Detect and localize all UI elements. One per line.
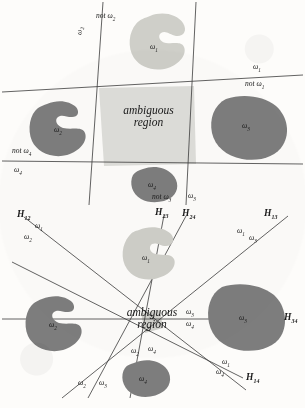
top-label-not-omega-3: not ω3 xyxy=(152,193,171,203)
top-label-omega-4: ω4 xyxy=(14,166,22,176)
bottom-hyperplane-label-H24: H24 xyxy=(182,209,195,220)
top-label-omega-1: ω1 xyxy=(253,63,261,73)
bottom-label-H24-omega-4: ω4 xyxy=(148,345,156,355)
top-blob-label-omega-4: ω4 xyxy=(148,181,156,191)
top-blob-label-omega-2: ω2 xyxy=(54,126,62,136)
bottom-label-H23-omega-3: ω3 xyxy=(99,379,107,389)
top-label-omega-3: ω3 xyxy=(188,192,196,202)
top-blob-omega1 xyxy=(130,14,185,70)
bottom-hyperplane-label-H23: H23 xyxy=(155,208,168,219)
bottom-ambiguous-line-1: ambiguous xyxy=(104,306,200,318)
bottom-label-H12-omega-1: ω1 xyxy=(35,222,43,232)
bottom-label-H14-omega-1: ω1 xyxy=(222,358,230,368)
top-blob-label-omega-1: ω1 xyxy=(150,43,158,53)
bottom-label-H14-omega-4: ω4 xyxy=(216,368,224,378)
figure-canvas: ω2 not ω2 ω1 not ω1 not ω4 ω4 not ω3 ω3 … xyxy=(0,0,305,408)
top-label-not-omega-1: not ω1 xyxy=(245,80,264,90)
bottom-hyperplane-label-H34: H34 xyxy=(284,313,297,324)
top-ambiguous-region-label: ambiguous region xyxy=(106,104,191,129)
top-ambiguous-line-2: region xyxy=(106,116,191,128)
bottom-blob-label-omega-1: ω1 xyxy=(142,254,150,264)
bottom-ambiguous-region-label: ambiguous region xyxy=(104,306,200,331)
top-label-not-omega-2: not ω2 xyxy=(96,12,115,22)
top-label-not-omega-4: not ω4 xyxy=(12,147,31,157)
bottom-label-H12-omega-2: ω2 xyxy=(24,233,32,243)
bottom-blob-label-omega-4: ω4 xyxy=(139,375,147,385)
bottom-label-H13-omega-3: ω3 xyxy=(249,234,257,244)
top-blob-label-omega-3: ω3 xyxy=(242,122,250,132)
bottom-blob-label-omega-2: ω2 xyxy=(49,321,57,331)
bottom-blob-label-omega-3: ω3 xyxy=(239,314,247,324)
bottom-hyperplane-label-H13: H13 xyxy=(264,209,277,220)
bottom-hyperplane-label-H14: H14 xyxy=(246,373,259,384)
bottom-label-H24-omega-2: ω2 xyxy=(131,347,139,357)
bottom-label-H23-omega-2: ω2 xyxy=(78,379,86,389)
top-ambiguous-line-1: ambiguous xyxy=(106,104,191,116)
top-label-omega-2: ω2 xyxy=(75,27,85,36)
bottom-label-H13-omega-1: ω1 xyxy=(237,227,245,237)
bottom-hyperplane-label-H12: H12 xyxy=(17,210,30,221)
bottom-ambiguous-line-2: region xyxy=(104,318,200,330)
